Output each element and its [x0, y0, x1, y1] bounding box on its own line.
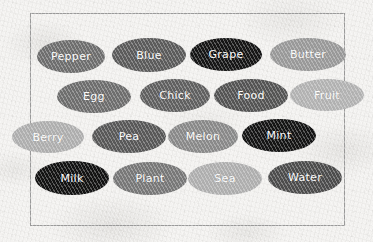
- bubble-label: Grape: [208, 49, 243, 60]
- bubble-label: Melon: [186, 131, 221, 142]
- bubble-label: Plant: [135, 173, 164, 184]
- bubble-butter[interactable]: Butter: [270, 38, 346, 71]
- bubble-mint[interactable]: Mint: [242, 119, 316, 152]
- bubble-label: Blue: [136, 50, 162, 61]
- bubble-fruit[interactable]: Fruit: [290, 79, 364, 111]
- bubble-sea[interactable]: Sea: [188, 162, 262, 195]
- bubble-plant[interactable]: Plant: [113, 162, 187, 195]
- bubble-grape[interactable]: Grape: [190, 38, 262, 71]
- bubble-label: Milk: [60, 173, 83, 184]
- bubble-label: Pepper: [51, 51, 91, 62]
- image-canvas: PepperBlueGrapeButterEggChickFoodFruitBe…: [0, 0, 373, 242]
- bubble-berry[interactable]: Berry: [12, 121, 84, 153]
- bubble-label: Butter: [290, 49, 326, 60]
- bubble-melon[interactable]: Melon: [168, 120, 238, 153]
- bubble-label: Pea: [119, 131, 140, 142]
- bubble-food[interactable]: Food: [214, 79, 288, 112]
- bubble-label: Food: [237, 90, 265, 101]
- bubble-pea[interactable]: Pea: [92, 120, 166, 153]
- bubble-milk[interactable]: Milk: [35, 161, 109, 195]
- bubble-label: Berry: [32, 132, 63, 143]
- bubble-egg[interactable]: Egg: [57, 80, 131, 113]
- bubble-label: Water: [288, 172, 322, 183]
- bubble-pepper[interactable]: Pepper: [37, 40, 105, 73]
- bubble-label: Mint: [266, 130, 291, 141]
- bubble-water[interactable]: Water: [268, 161, 342, 194]
- bubble-label: Chick: [159, 90, 191, 101]
- bubble-label: Fruit: [314, 90, 340, 101]
- bubble-chick[interactable]: Chick: [140, 79, 210, 112]
- bubble-label: Egg: [83, 91, 105, 102]
- bubble-blue[interactable]: Blue: [112, 38, 186, 72]
- bubble-label: Sea: [214, 173, 235, 184]
